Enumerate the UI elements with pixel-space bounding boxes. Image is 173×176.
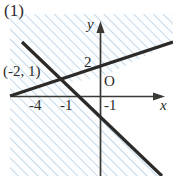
x-tick-label-minus1: -1: [60, 98, 73, 113]
y-tick-label-minus1: -1: [104, 98, 117, 113]
x-axis-label: x: [160, 98, 167, 113]
x-tick-label-minus4: -4: [29, 98, 42, 113]
y-axis-label: y: [87, 17, 94, 32]
problem-number-label: (1): [4, 2, 24, 19]
origin-label: O: [104, 74, 115, 89]
intersection-point-label: (-2, 1): [3, 64, 41, 79]
y-tick-label-2: 2: [84, 55, 92, 70]
